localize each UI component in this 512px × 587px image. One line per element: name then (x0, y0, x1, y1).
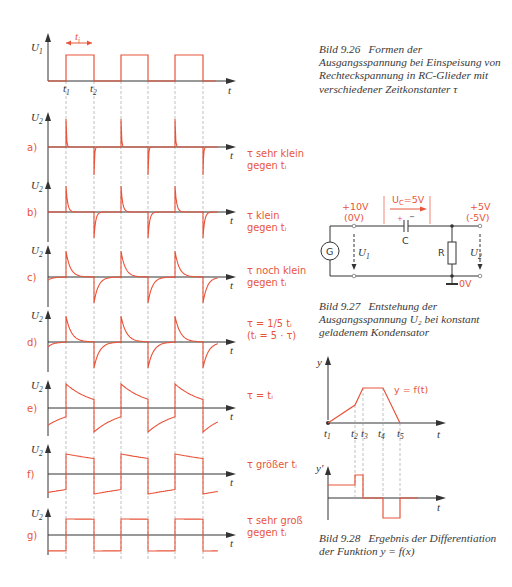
derivative-curve (328, 475, 418, 518)
caption-figure-9-28: Bild 9.28Ergebnis der Differentiation de… (319, 532, 509, 558)
t2-tick: t2 (351, 427, 358, 441)
function-curve (328, 388, 400, 423)
y-axis-label: y (316, 356, 322, 368)
t3-tick: t3 (361, 427, 368, 441)
t4-tick: t4 (378, 427, 385, 441)
t1-tick: t1 (324, 427, 331, 441)
differentiation-diagram: y = f(t) y y' t t t1 t2 t3 t4 t5 (0, 0, 512, 587)
x-axis-label-bottom: t (437, 501, 441, 513)
x-axis-label-top: t (437, 428, 441, 440)
function-label: y = f(t) (394, 384, 428, 395)
t5-tick: t5 (397, 427, 404, 441)
dy-axis-label: y' (315, 462, 324, 474)
